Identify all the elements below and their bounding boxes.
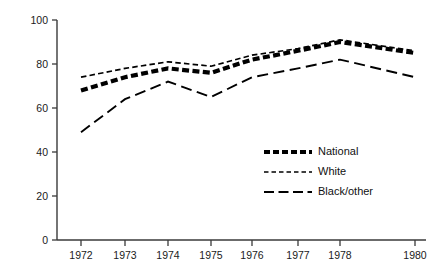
y-tick-label: 0 [42,234,48,246]
y-tick-label: 60 [36,102,48,114]
x-axis: 19721973197419751976197719781980 [57,240,427,261]
y-axis: 020406080100 [30,14,57,246]
y-tick-label: 80 [36,58,48,70]
legend-item[interactable]: National [264,145,358,157]
legend-label: National [318,145,358,157]
x-tick-label: 1974 [156,249,180,261]
x-tick-label: 1978 [328,249,352,261]
data-series-group [81,40,415,132]
chart-legend: NationalWhiteBlack/other [264,145,373,197]
chart-container: 020406080100 197219731974197519761977197… [0,0,440,279]
y-tick-label: 40 [36,146,48,158]
x-tick-label: 1975 [199,249,223,261]
line-chart-plot: 020406080100 197219731974197519761977197… [0,0,440,279]
legend-item[interactable]: Black/other [264,185,373,197]
series-line-white [81,40,415,77]
legend-item[interactable]: White [264,165,346,177]
x-tick-label: 1973 [113,249,137,261]
x-tick-label: 1980 [403,249,427,261]
x-tick-label: 1976 [240,249,264,261]
legend-label: White [318,165,346,177]
y-tick-label: 20 [36,190,48,202]
y-tick-label: 100 [30,14,48,26]
legend-label: Black/other [318,185,373,197]
x-tick-label: 1977 [286,249,310,261]
series-line-black-other [81,60,415,133]
x-tick-label: 1972 [69,249,93,261]
series-line-national [81,42,415,90]
